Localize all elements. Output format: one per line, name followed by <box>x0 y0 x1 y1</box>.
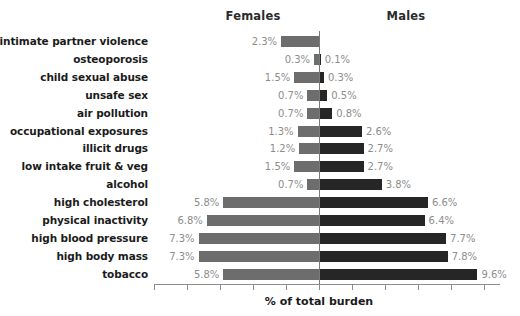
chart-row: unsafe sex0.7%0.5% <box>0 87 520 105</box>
bar-males <box>319 197 428 208</box>
value-label-males: 7.8% <box>452 251 477 262</box>
bar-females <box>307 179 319 190</box>
bar-males <box>319 108 332 119</box>
category-label: air pollution <box>0 107 148 119</box>
chart-row: high cholesterol5.8%6.6% <box>0 194 520 212</box>
category-label: osteoporosis <box>0 53 148 65</box>
legend-label-males: Males <box>387 9 426 23</box>
x-axis-label: % of total burden <box>265 295 373 308</box>
bar-males <box>319 143 364 154</box>
value-label-females: 0.7% <box>278 90 303 101</box>
x-axis-tick <box>484 284 485 290</box>
bar-females <box>307 90 319 101</box>
chart-row: illicit drugs1.2%2.7% <box>0 140 520 158</box>
x-axis-tick <box>418 284 419 290</box>
bar-females <box>294 72 319 83</box>
value-label-males: 0.3% <box>328 72 353 83</box>
value-label-females: 1.5% <box>265 161 290 172</box>
legend-label-females: Females <box>226 9 281 23</box>
value-label-females: 7.3% <box>169 251 194 262</box>
x-axis-tick <box>286 284 287 290</box>
bar-females <box>223 197 319 208</box>
value-label-females: 1.5% <box>265 72 290 83</box>
bar-females <box>281 36 319 47</box>
category-label: high cholesterol <box>0 196 148 208</box>
bar-females <box>207 215 319 226</box>
bar-females <box>294 161 319 172</box>
x-axis-tick <box>451 284 452 290</box>
value-label-males: 2.6% <box>366 126 391 137</box>
bar-males <box>319 90 327 101</box>
value-label-females: 0.3% <box>285 54 310 65</box>
value-label-females: 6.8% <box>177 215 202 226</box>
bar-males <box>319 251 448 262</box>
value-label-females: 5.8% <box>194 269 219 280</box>
bar-males <box>319 161 364 172</box>
bar-females <box>298 126 319 137</box>
value-label-females: 1.3% <box>268 126 293 137</box>
bar-females <box>223 269 319 280</box>
category-label: illicit drugs <box>0 142 148 154</box>
value-label-males: 2.7% <box>368 143 393 154</box>
x-axis-tick <box>220 284 221 290</box>
bar-females <box>199 251 319 262</box>
chart-row: high body mass7.3%7.8% <box>0 248 520 266</box>
burden-of-disease-pyramid-chart: Females Males intimate partner violence2… <box>0 0 520 316</box>
x-axis-tick <box>385 284 386 290</box>
chart-row: low intake fruit & veg1.5%2.7% <box>0 158 520 176</box>
category-label: child sexual abuse <box>0 71 148 83</box>
x-axis-tick <box>319 284 320 290</box>
bar-males <box>319 126 362 137</box>
x-axis-tick <box>253 284 254 290</box>
bar-males <box>319 179 382 190</box>
value-label-females: 2.3% <box>252 36 277 47</box>
zero-axis-line <box>319 31 320 284</box>
chart-row: alcohol0.7%3.8% <box>0 176 520 194</box>
value-label-males: 9.6% <box>481 269 506 280</box>
x-axis-tick <box>352 284 353 290</box>
value-label-females: 0.7% <box>278 179 303 190</box>
category-label: high blood pressure <box>0 232 148 244</box>
value-label-females: 1.2% <box>270 143 295 154</box>
value-label-males: 0.1% <box>325 54 350 65</box>
category-label: alcohol <box>0 178 148 190</box>
value-label-females: 5.8% <box>194 197 219 208</box>
bar-females <box>199 233 319 244</box>
value-label-males: 0.8% <box>336 108 361 119</box>
x-axis-tick <box>154 284 155 290</box>
chart-row: intimate partner violence2.3% <box>0 33 520 51</box>
value-label-males: 6.4% <box>429 215 454 226</box>
bar-females <box>307 108 319 119</box>
bar-males <box>319 269 477 280</box>
category-label: occupational exposures <box>0 125 148 137</box>
bar-males <box>319 233 446 244</box>
category-label: intimate partner violence <box>0 35 148 47</box>
chart-row: tobacco5.8%9.6% <box>0 266 520 284</box>
chart-row: osteoporosis0.3%0.1% <box>0 51 520 69</box>
chart-row: child sexual abuse1.5%0.3% <box>0 69 520 87</box>
value-label-males: 6.6% <box>432 197 457 208</box>
chart-row: occupational exposures1.3%2.6% <box>0 123 520 141</box>
category-label: low intake fruit & veg <box>0 160 148 172</box>
value-label-males: 3.8% <box>386 179 411 190</box>
value-label-males: 2.7% <box>368 161 393 172</box>
x-axis-line <box>155 284 500 285</box>
category-label: high body mass <box>0 250 148 262</box>
value-label-males: 0.5% <box>331 90 356 101</box>
category-label: unsafe sex <box>0 89 148 101</box>
bar-males <box>319 215 425 226</box>
value-label-females: 0.7% <box>278 108 303 119</box>
value-label-females: 7.3% <box>169 233 194 244</box>
chart-row: high blood pressure7.3%7.7% <box>0 230 520 248</box>
bar-females <box>299 143 319 154</box>
chart-row: physical inactivity6.8%6.4% <box>0 212 520 230</box>
category-label: tobacco <box>0 268 148 280</box>
chart-row: air pollution0.7%0.8% <box>0 105 520 123</box>
category-label: physical inactivity <box>0 214 148 226</box>
x-axis-tick <box>187 284 188 290</box>
value-label-males: 7.7% <box>450 233 475 244</box>
